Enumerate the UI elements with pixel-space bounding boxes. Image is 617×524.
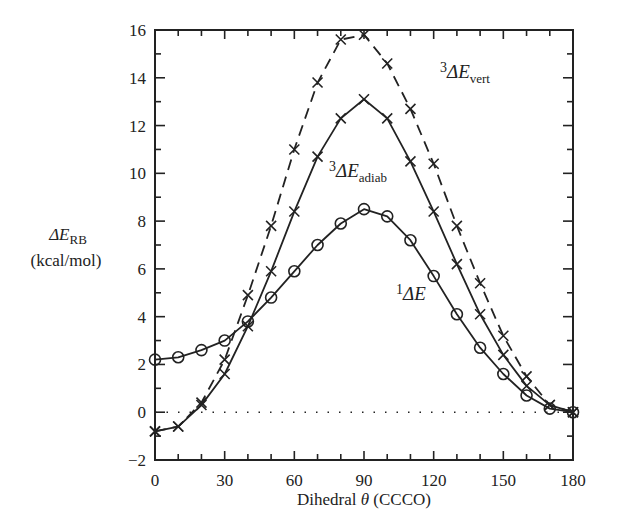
- x-tick-label: 150: [491, 471, 517, 490]
- y-tick-label: 10: [129, 164, 146, 183]
- x-marker: [475, 309, 485, 319]
- x-tick-labels: 0306090120150180: [151, 471, 586, 490]
- x-tick-label: 90: [356, 471, 373, 490]
- label-adiab: 3ΔEadiab: [329, 159, 387, 185]
- x-marker: [289, 144, 299, 154]
- x-marker: [429, 207, 439, 217]
- x-marker: [313, 152, 323, 162]
- x-marker: [452, 221, 462, 231]
- y-tick-label: 4: [138, 308, 147, 327]
- plot-frame: [155, 30, 573, 460]
- y-tick-label: 16: [129, 21, 146, 40]
- x-marker: [405, 156, 415, 166]
- x-tick-label: 60: [286, 471, 303, 490]
- series-3-e-vert: [150, 30, 578, 437]
- x-marker: [336, 113, 346, 123]
- series-3-e-adiab: [150, 94, 578, 436]
- plot-border: [155, 30, 573, 460]
- x-marker: [452, 259, 462, 269]
- x-tick-label: 0: [151, 471, 160, 490]
- svg-text:3ΔEadiab: 3ΔEadiab: [329, 159, 387, 185]
- x-marker: [498, 350, 508, 360]
- y-tick-label: 12: [129, 117, 146, 136]
- x-axis-title: Dihedral θ (CCCO): [297, 490, 431, 509]
- x-marker: [243, 290, 253, 300]
- y-tick-label: 0: [138, 403, 147, 422]
- y-tick-label: 14: [129, 69, 147, 88]
- svg-text:3ΔEvert: 3ΔEvert: [440, 60, 490, 86]
- series-layer: [150, 30, 579, 437]
- series-line: [155, 35, 573, 432]
- x-marker: [266, 221, 276, 231]
- x-marker: [429, 159, 439, 169]
- label-vert: 3ΔEvert: [440, 60, 490, 86]
- series-line: [155, 209, 573, 412]
- series-1-e: [150, 204, 579, 418]
- x-tick-label: 30: [216, 471, 233, 490]
- y-tick-label: 2: [138, 355, 147, 374]
- x-marker: [220, 355, 230, 365]
- minor-ticks: [155, 30, 573, 460]
- y-tick-label: 6: [138, 260, 147, 279]
- x-marker: [266, 266, 276, 276]
- label-singlet: 1ΔE: [396, 282, 426, 304]
- x-marker: [313, 78, 323, 88]
- x-marker: [289, 207, 299, 217]
- chart: 0306090120150180 −20246810121416 Dihedra…: [0, 0, 617, 524]
- x-marker: [382, 113, 392, 123]
- x-marker: [498, 331, 508, 341]
- x-marker: [405, 104, 415, 114]
- x-tick-label: 120: [421, 471, 447, 490]
- x-marker: [382, 58, 392, 68]
- x-tick-label: 180: [560, 471, 586, 490]
- svg-text:1ΔE: 1ΔE: [396, 282, 426, 304]
- y-tick-labels: −20246810121416: [128, 21, 147, 470]
- y-tick-label: 8: [138, 212, 147, 231]
- x-marker: [220, 369, 230, 379]
- y-axis-unit: (kcal/mol): [31, 251, 102, 270]
- x-marker: [359, 94, 369, 104]
- x-marker: [475, 278, 485, 288]
- y-axis-title: ΔERB: [48, 225, 87, 247]
- y-tick-label: −2: [128, 451, 146, 470]
